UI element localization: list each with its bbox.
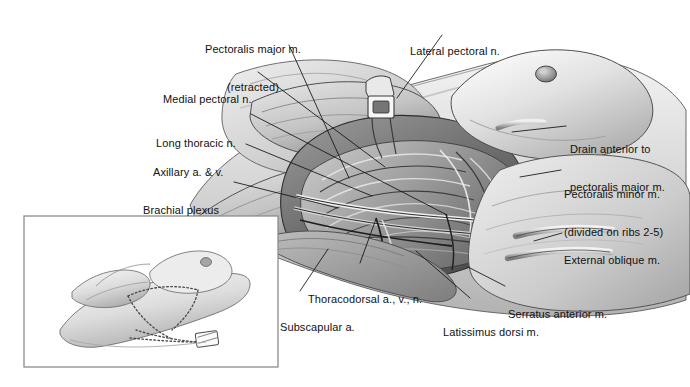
label-lateral-pectoral-n-line1: Lateral pectoral n. (410, 45, 500, 58)
label-brachial-plexus: Brachial plexus (143, 179, 219, 242)
nipple (536, 66, 557, 82)
inset-nipple (201, 258, 212, 267)
label-axillary-a-v-line1: Axillary a. & v. (153, 166, 223, 179)
label-pectoralis-major-line1: Pectoralis major m. (183, 43, 323, 56)
label-drain-anterior-line1: Drain anterior to (570, 143, 665, 156)
label-brachial-plexus-line1: Brachial plexus (143, 204, 219, 217)
label-subscapular-a: Subscapular a. (280, 296, 355, 359)
label-external-oblique-line1: External oblique m. (564, 254, 660, 267)
label-lateral-pectoral-n: Lateral pectoral n. (410, 20, 500, 83)
label-latissimus-dorsi: Latissimus dorsi m. (443, 301, 539, 364)
inset-drain-marker (195, 331, 219, 348)
label-subscapular-a-line1: Subscapular a. (280, 321, 355, 334)
label-pectoralis-minor-line1: Pectoralis minor m. (564, 188, 663, 201)
anatomical-figure: Pectoralis major m. (retracted) Lateral … (0, 0, 690, 387)
label-medial-pectoral-n-line1: Medial pectoral n. (163, 93, 252, 106)
label-latissimus-dorsi-line1: Latissimus dorsi m. (443, 326, 539, 339)
